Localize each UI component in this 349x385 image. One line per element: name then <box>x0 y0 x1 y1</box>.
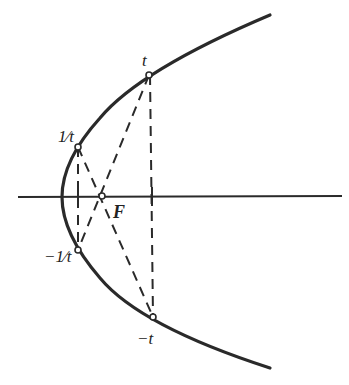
label-neg-t: −t <box>137 330 153 347</box>
point-neg-t <box>150 314 156 320</box>
label-t: t <box>142 52 147 69</box>
point-t <box>146 72 152 78</box>
label-inv-t: 1⁄t <box>58 128 74 145</box>
chord-t-neg-inv-t <box>78 75 149 250</box>
diagram-canvas: t 1⁄t −1⁄t −t F <box>0 0 349 385</box>
label-focus: F <box>113 203 125 221</box>
point-focus <box>99 193 105 199</box>
axis-line <box>18 196 342 197</box>
parabola-curve <box>62 15 270 368</box>
label-neg-inv-t: −1⁄t <box>44 248 72 265</box>
parabola-diagram <box>0 0 349 385</box>
point-neg-inv-t <box>75 247 81 253</box>
point-inv-t <box>75 144 81 150</box>
